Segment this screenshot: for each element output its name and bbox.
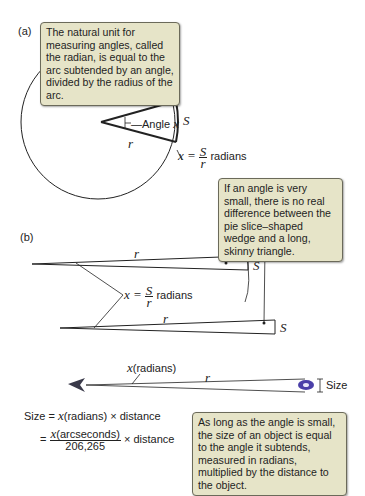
formula-a: x = Sr radians (178, 146, 247, 169)
x-pointer-top (76, 263, 123, 295)
callout-radian-definition: The natural unit for measuring angles, c… (40, 22, 180, 106)
equation-size-radians: Size = x(radians) × distance (24, 408, 161, 424)
size-label: Size (326, 379, 347, 391)
panel-a-label: (a) (18, 25, 31, 37)
bottom-side-s: S (280, 320, 287, 336)
angle-radians-label: x(radians) (127, 360, 176, 376)
angle-label: —Angle x (131, 116, 179, 132)
formula-b: x = Sr radians (124, 285, 193, 308)
callout-small-angle: If an angle is very small, there is no r… (218, 178, 343, 262)
x-pointer-bottom (94, 295, 123, 328)
panel-b-label: (b) (20, 231, 33, 243)
sight-lower (86, 385, 305, 392)
radius-label-r: r (128, 136, 133, 152)
bottom-radius-r: r (163, 311, 168, 327)
bottom-triangle-lower (60, 328, 275, 334)
callout-size-distance: As long as the angle is small, the size … (192, 412, 347, 496)
distance-r-label: r (205, 370, 210, 386)
sight-upper (86, 379, 305, 385)
top-wedge-upper (32, 256, 248, 264)
eye-icon (68, 378, 85, 392)
equation-size-arcseconds: = x(arcseconds)206,265 × distance (40, 428, 174, 452)
top-radius-r: r (134, 246, 139, 262)
top-wedge-lower (32, 264, 248, 270)
top-arc-s: S (253, 258, 260, 274)
arc-label-s: S (183, 113, 190, 129)
